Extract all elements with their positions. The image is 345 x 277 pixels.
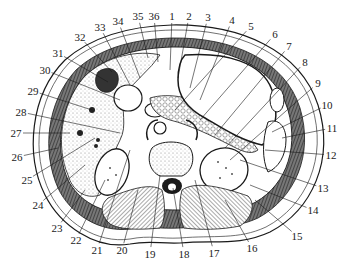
label-23: 23 bbox=[52, 223, 63, 234]
label-17: 17 bbox=[209, 248, 220, 259]
label-4: 4 bbox=[229, 15, 235, 26]
label-14: 14 bbox=[308, 205, 319, 216]
label-22: 22 bbox=[71, 235, 82, 246]
label-34: 34 bbox=[113, 16, 124, 27]
label-36: 36 bbox=[149, 11, 160, 22]
label-31: 31 bbox=[53, 48, 64, 59]
label-24: 24 bbox=[33, 200, 44, 211]
label-5: 5 bbox=[248, 21, 254, 32]
label-33: 33 bbox=[95, 22, 106, 33]
gallbladder bbox=[96, 69, 119, 93]
label-1: 1 bbox=[169, 11, 175, 22]
label-32: 32 bbox=[75, 32, 86, 43]
label-19: 19 bbox=[145, 249, 156, 260]
label-35: 35 bbox=[133, 11, 144, 22]
label-8: 8 bbox=[302, 57, 308, 68]
spinal-cord bbox=[168, 184, 176, 191]
label-12: 12 bbox=[326, 150, 337, 161]
label-25: 25 bbox=[22, 175, 33, 186]
duodenum bbox=[114, 85, 142, 111]
label-21: 21 bbox=[92, 245, 103, 256]
aorta bbox=[154, 122, 166, 134]
label-2: 2 bbox=[186, 11, 192, 22]
label-11: 11 bbox=[327, 123, 338, 134]
label-13: 13 bbox=[318, 183, 329, 194]
label-29: 29 bbox=[28, 86, 39, 97]
label-26: 26 bbox=[12, 152, 23, 163]
label-6: 6 bbox=[272, 29, 278, 40]
vertebral-body bbox=[149, 142, 193, 176]
label-27: 27 bbox=[11, 128, 22, 139]
label-16: 16 bbox=[247, 243, 258, 254]
splenic-flexure bbox=[270, 88, 284, 112]
label-10: 10 bbox=[322, 100, 333, 111]
label-28: 28 bbox=[16, 107, 27, 118]
label-20: 20 bbox=[117, 245, 128, 256]
label-9: 9 bbox=[315, 78, 321, 89]
label-15: 15 bbox=[292, 231, 303, 242]
label-3: 3 bbox=[205, 12, 211, 23]
label-18: 18 bbox=[179, 249, 190, 260]
label-30: 30 bbox=[40, 65, 51, 76]
label-7: 7 bbox=[286, 41, 292, 52]
